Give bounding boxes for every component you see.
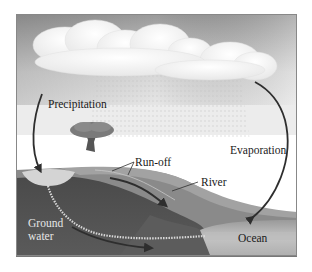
water-cycle-diagram: Precipitation Evaporation Run-off River …	[0, 0, 312, 272]
run-off-label: Run-off	[135, 157, 171, 169]
rain	[90, 75, 250, 140]
ground-water-label-line2: water	[28, 231, 54, 243]
river-label: River	[201, 177, 227, 189]
precipitation-label: Precipitation	[48, 99, 107, 111]
evaporation-label: Evaporation	[230, 145, 286, 157]
ocean-label: Ocean	[238, 233, 267, 245]
ground-water-label-line1: Ground	[28, 218, 63, 230]
